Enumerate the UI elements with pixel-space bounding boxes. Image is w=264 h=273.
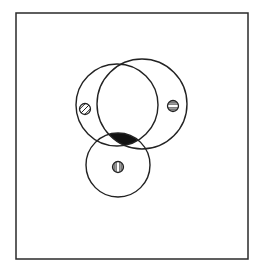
- venn-diagram: [0, 0, 264, 273]
- horizontal-hatch-circle-icon: [168, 101, 179, 112]
- vertical-hatch-circle-icon: [113, 162, 124, 173]
